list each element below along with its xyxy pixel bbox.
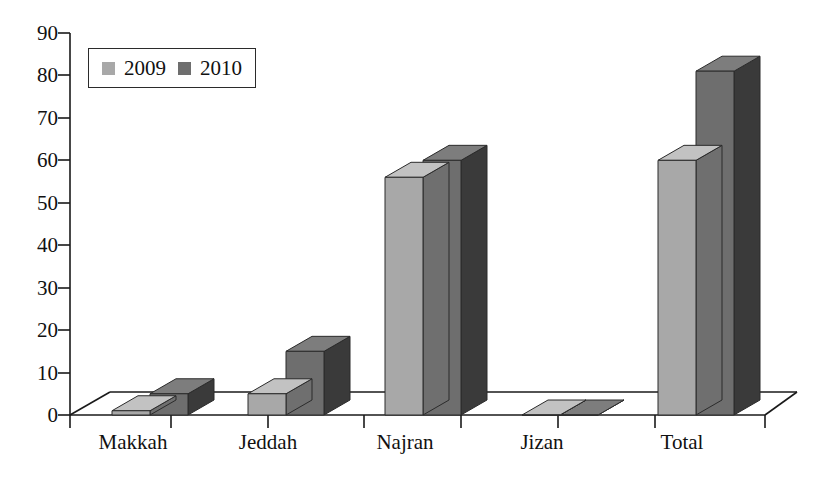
y-axis-tick-label: 0	[12, 405, 58, 426]
x-axis-tick-label: Makkah	[99, 432, 168, 453]
legend-entry-2010: 2010	[178, 58, 242, 79]
bar-najran-2009-side	[423, 162, 449, 415]
bar-najran-2009-front	[385, 177, 423, 415]
bar-jeddah-2009-front	[248, 394, 286, 415]
x-axis-tick-label: Jizan	[520, 432, 563, 453]
y-axis-tick-label: 90	[12, 23, 58, 44]
legend-swatch-2009	[102, 62, 115, 75]
x-axis-tick-label: Najran	[376, 432, 433, 453]
x-axis-tick-label: Jeddah	[239, 432, 297, 453]
y-axis-labels: 0102030405060708090	[0, 0, 58, 479]
x-axis-labels: MakkahJeddahNajranJizanTotal	[0, 432, 825, 472]
bar-total-2009-front	[658, 160, 696, 415]
y-axis-tick-label: 80	[12, 65, 58, 86]
legend-label-2010: 2010	[200, 58, 242, 79]
bar-najran-2009	[385, 162, 449, 415]
bar-total-2010-side	[734, 56, 760, 415]
bar-total-2009	[658, 145, 722, 415]
legend-entry-2009: 2009	[102, 58, 166, 79]
chart-legend: 2009 2010	[88, 48, 256, 88]
bar-total-2009-side	[696, 145, 722, 415]
legend-swatch-2010	[178, 62, 191, 75]
y-axis-tick-label: 30	[12, 277, 58, 298]
bar-najran-2010-side	[461, 145, 487, 415]
y-axis-tick-label: 70	[12, 107, 58, 128]
bar-chart: 0102030405060708090 MakkahJeddahNajranJi…	[0, 0, 825, 479]
y-axis-tick-label: 10	[12, 362, 58, 383]
y-axis-tick-label: 50	[12, 192, 58, 213]
y-axis-tick-label: 20	[12, 320, 58, 341]
legend-label-2009: 2009	[124, 58, 166, 79]
bar-makkah-2009-front	[112, 411, 150, 415]
y-axis-tick-label: 40	[12, 235, 58, 256]
y-axis-tick-label: 60	[12, 150, 58, 171]
x-axis-tick-label: Total	[661, 432, 704, 453]
